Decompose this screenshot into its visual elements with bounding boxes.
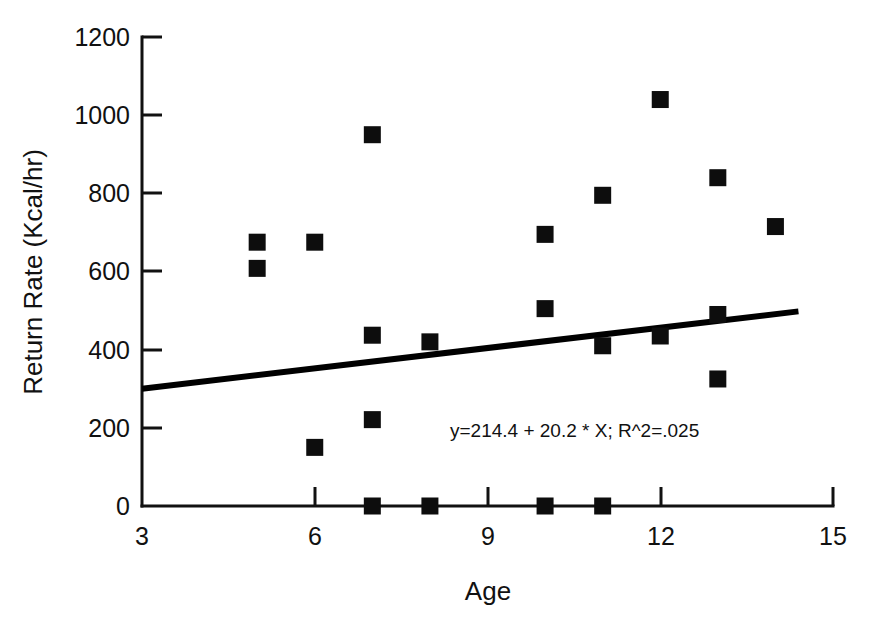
- data-point-marker: [594, 498, 611, 515]
- data-point-marker: [767, 218, 784, 235]
- y-tick-label-1000: 1000: [74, 101, 130, 129]
- y-tick-label-1200: 1200: [74, 23, 130, 51]
- y-tick-label-200: 200: [88, 414, 130, 442]
- y-tick-label-400: 400: [88, 336, 130, 364]
- data-point-marker: [364, 498, 381, 515]
- data-point-marker: [364, 411, 381, 428]
- data-point-marker: [709, 169, 726, 186]
- x-axis-tick-labels: 3 6 9 12 15: [135, 522, 847, 550]
- data-point-marker: [594, 337, 611, 354]
- data-point-marker: [421, 333, 438, 350]
- plot-canvas: 1200 1000 800 600 400 200 0 3 6 9 12 15 …: [0, 0, 870, 626]
- data-point-marker: [537, 226, 554, 243]
- y-tick-label-0: 0: [116, 492, 130, 520]
- x-tick-label-12: 12: [647, 522, 675, 550]
- data-point-marker: [249, 260, 266, 277]
- y-tick-label-800: 800: [88, 179, 130, 207]
- data-point-marker: [652, 91, 669, 108]
- data-point-marker: [364, 126, 381, 143]
- data-point-marker: [652, 327, 669, 344]
- x-axis-ticks: [315, 487, 833, 506]
- data-point-marker: [306, 439, 323, 456]
- data-point-marker: [306, 234, 323, 251]
- data-point-marker: [537, 300, 554, 317]
- data-point-marker: [249, 234, 266, 251]
- x-tick-label-15: 15: [819, 522, 847, 550]
- data-point-marker: [709, 306, 726, 323]
- data-point-marker: [421, 498, 438, 515]
- data-point-marker: [709, 370, 726, 387]
- x-axis-title: Age: [465, 576, 511, 606]
- data-point-marker: [537, 498, 554, 515]
- y-tick-label-600: 600: [88, 257, 130, 285]
- y-axis-tick-labels: 1200 1000 800 600 400 200 0: [74, 23, 130, 520]
- scatter-chart-figure: 1200 1000 800 600 400 200 0 3 6 9 12 15 …: [0, 0, 870, 626]
- y-axis-title: Return Rate (Kcal/hr): [18, 149, 48, 395]
- x-tick-label-6: 6: [308, 522, 322, 550]
- regression-equation-label: y=214.4 + 20.2 * X; R^2=.025: [450, 420, 699, 441]
- x-tick-label-3: 3: [135, 522, 149, 550]
- data-points-group: [249, 91, 784, 514]
- y-axis-ticks: [142, 37, 162, 428]
- data-point-marker: [364, 327, 381, 344]
- x-tick-label-9: 9: [481, 522, 495, 550]
- regression-line: [142, 311, 798, 388]
- data-point-marker: [594, 187, 611, 204]
